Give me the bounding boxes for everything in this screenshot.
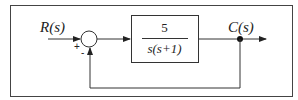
summing-junction <box>81 31 97 47</box>
output-label: C(s) <box>228 20 254 35</box>
fraction-bar <box>142 38 188 39</box>
transfer-function: 5 s(s+1) <box>131 15 198 62</box>
tf-numerator: 5 <box>161 20 168 36</box>
minus-sign: - <box>81 48 84 58</box>
input-label: R(s) <box>40 20 65 35</box>
plus-sign: + <box>74 42 80 52</box>
tf-denominator: s(s+1) <box>147 41 181 57</box>
